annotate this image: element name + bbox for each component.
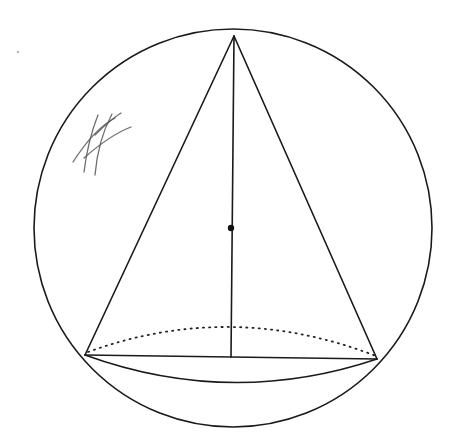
cone-axis-height (231, 36, 234, 357)
cone-in-sphere-figure (0, 0, 454, 439)
cone-right-slant-edge (234, 36, 377, 359)
cone-left-slant-edge (85, 36, 234, 355)
sphere-center-point (228, 225, 234, 231)
diagram-canvas: Cone inscribed in a sphere: sphere outli… (0, 0, 454, 439)
stray-speck (17, 51, 19, 53)
hatch-scribble-mark (73, 113, 131, 175)
